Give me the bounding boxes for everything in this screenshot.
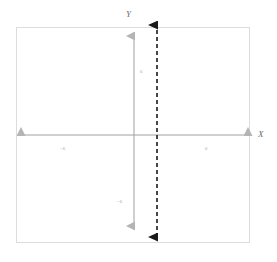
graph-figure: Y X −6 6 6 −6	[0, 0, 277, 262]
x-tick-label-negative-6: −6	[60, 146, 65, 151]
x-tick-label-positive-6: 6	[205, 146, 208, 151]
x-axis-label: X	[258, 130, 264, 139]
coordinate-plane-svg	[0, 0, 277, 262]
y-tick-label-positive-6: 6	[140, 69, 143, 74]
y-tick-label-negative-6: −6	[117, 199, 122, 204]
y-axis-label: Y	[126, 10, 131, 19]
